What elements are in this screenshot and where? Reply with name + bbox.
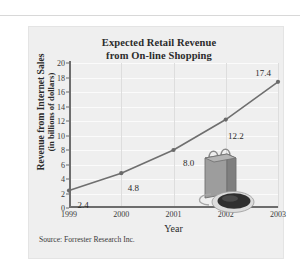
- x-tick-label: 2001: [166, 210, 182, 219]
- x-tick-label: 2000: [113, 210, 129, 219]
- y-tick-label: 4: [61, 175, 65, 184]
- x-tick-label: 2003: [270, 210, 286, 219]
- data-point-label: 12.2: [228, 131, 244, 141]
- mouse-highlight: [222, 195, 238, 201]
- chart-panel: Expected Retail Revenue from On-line Sho…: [28, 26, 284, 259]
- y-axis-label-line1: Revenue from Internet Sales: [35, 54, 46, 171]
- data-point-label: 17.4: [255, 68, 271, 78]
- gridline-vertical: [278, 63, 279, 208]
- source-note: Source: Forrester Research Inc.: [39, 235, 135, 244]
- y-tick-label: 14: [57, 102, 65, 111]
- y-tick-label: 2: [61, 189, 65, 198]
- data-point-label: 2.4: [77, 200, 88, 210]
- y-tick-label: 18: [57, 73, 65, 82]
- bag-side-face: [227, 154, 236, 194]
- x-tick-label: 1999: [61, 210, 77, 219]
- shopping-bag-icon: [189, 141, 267, 213]
- y-tick-label: 16: [57, 88, 65, 97]
- y-axis-label: Revenue from Internet Sales (in billions…: [35, 32, 57, 192]
- y-tick-label: 12: [57, 117, 65, 126]
- y-tick-label: 10: [57, 131, 65, 140]
- y-tick-label: 8: [61, 146, 65, 155]
- data-point-marker: [119, 171, 123, 175]
- data-point-marker: [224, 117, 228, 121]
- y-axis-label-line2: (in billions of dollars): [46, 32, 57, 192]
- data-point-label: 4.8: [128, 183, 139, 193]
- x-axis-label: Year: [69, 223, 278, 234]
- data-point-marker: [276, 80, 280, 84]
- data-point-marker: [67, 189, 71, 193]
- y-tick-label: 6: [61, 160, 65, 169]
- chart-title-line2: from On-line Shopping: [69, 50, 249, 63]
- figure-page: Expected Retail Revenue from On-line Sho…: [0, 0, 300, 269]
- chart-title-line1: Expected Retail Revenue: [102, 37, 216, 48]
- chart-title: Expected Retail Revenue from On-line Sho…: [69, 37, 249, 62]
- top-divider: [0, 15, 300, 16]
- data-point-marker: [171, 148, 175, 152]
- plot-area: 02468101214161820 19992000200120022003 2…: [69, 63, 278, 208]
- y-tick-label: 20: [57, 59, 65, 68]
